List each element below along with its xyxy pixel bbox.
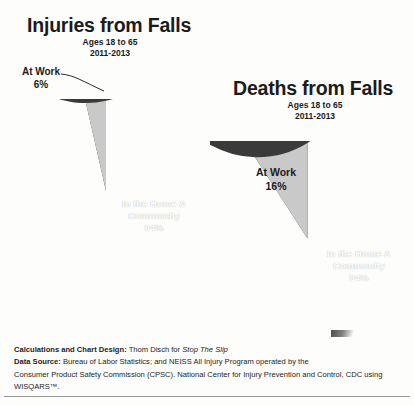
- footer-line-1: Calculations and Chart Design: Thom Disc…: [14, 344, 406, 356]
- chart-page: Injuries from Falls Ages 18 to 65 2011-2…: [0, 0, 414, 405]
- chart-1-title: Injuries from Falls: [27, 14, 191, 37]
- footer-line-2: Data Source: Bureau of Labor Statistics;…: [14, 356, 406, 368]
- footer-line-2-text: Bureau of Labor Statistics; and NEISS Al…: [61, 357, 309, 366]
- chart-1-home-label: In the Home & Community 94%: [100, 198, 208, 234]
- footer-credits: Calculations and Chart Design: Thom Disc…: [14, 344, 406, 393]
- chart-2-home-label-line2: Community: [306, 260, 412, 272]
- footer-line-1-italic: Stop The Slip: [182, 345, 228, 354]
- chart-1-subtitle-years: 2011-2013: [40, 48, 180, 58]
- chart-1-slice-at-work: [86, 101, 106, 191]
- footer-line-4: WISQARS™.: [14, 381, 406, 393]
- chart-1-pie-svg: [14, 99, 198, 283]
- chart-2-at-work-value: 16%: [241, 180, 311, 194]
- chart-2-home-value: 84%: [306, 272, 412, 284]
- chart-2-subtitle-years: 2011-2013: [245, 111, 385, 121]
- chart-2-home-label: In the Home & Community 84%: [306, 248, 412, 284]
- chart-1-subtitle-ages: Ages 18 to 65: [40, 37, 180, 47]
- footer-divider: [4, 396, 410, 397]
- chart-2-title: Deaths from Falls: [233, 77, 393, 100]
- chart-1-pie: [14, 99, 198, 283]
- chart-2-home-label-line1: In the Home &: [306, 248, 412, 260]
- chart-2-at-work-label-text: At Work: [241, 166, 311, 180]
- chart-1-home-label-line2: Community: [100, 210, 208, 222]
- chart-1-home-label-line1: In the Home &: [100, 198, 208, 210]
- chart-1-home-value: 94%: [100, 222, 208, 234]
- footer-line-3: Consumer Product Safety Commission (CPSC…: [14, 369, 406, 381]
- footer-line-2-label: Data Source:: [14, 357, 61, 366]
- chart-1-leader-line: [60, 72, 106, 94]
- chart-2-at-work-label: At Work 16%: [241, 166, 311, 193]
- scan-artifact: [331, 330, 357, 337]
- chart-2-subtitle-ages: Ages 18 to 65: [245, 100, 385, 110]
- footer-line-1-label: Calculations and Chart Design:: [14, 345, 127, 354]
- footer-line-1-text: Thom Disch for: [127, 345, 183, 354]
